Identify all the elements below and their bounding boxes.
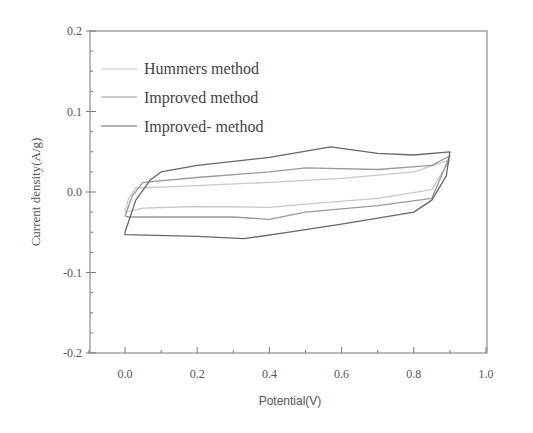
x-axis-ticks xyxy=(89,347,486,353)
y-tick-label: 0.2 xyxy=(67,24,82,38)
y-axis-tick-labels: 0.20.10.0-0.1-0.2 xyxy=(63,24,82,360)
y-axis-title: Current density(A/g) xyxy=(28,138,43,247)
x-tick-label: 0.0 xyxy=(118,367,133,381)
y-tick-label: -0.1 xyxy=(63,266,82,280)
legend-label-improved: Improved method xyxy=(144,89,258,107)
cv-chart: 0.00.20.40.60.81.0 0.20.10.0-0.1-0.2 Hum… xyxy=(0,0,533,433)
y-axis-ticks xyxy=(86,31,96,353)
x-tick-label: 0.8 xyxy=(406,367,421,381)
legend-label-hummers: Hummers method xyxy=(144,60,259,77)
plot-frame xyxy=(90,31,487,353)
series-line-2 xyxy=(125,147,450,239)
series-layer xyxy=(125,147,450,239)
x-tick-label: 1.0 xyxy=(479,367,494,381)
x-tick-label: 0.4 xyxy=(262,367,277,381)
y-tick-label: 0.1 xyxy=(67,105,82,119)
y-tick-label: 0.0 xyxy=(67,185,82,199)
legend: Hummers method Improved method Improved-… xyxy=(101,60,264,136)
y-tick-label: -0.2 xyxy=(63,346,82,360)
x-axis-title: Potential(V) xyxy=(259,394,322,408)
series-line-1 xyxy=(125,156,450,220)
legend-label-improved-minus: Improved- method xyxy=(144,118,264,136)
x-axis-tick-labels: 0.00.20.40.60.81.0 xyxy=(118,367,494,381)
x-tick-label: 0.6 xyxy=(334,367,349,381)
x-tick-label: 0.2 xyxy=(190,367,205,381)
